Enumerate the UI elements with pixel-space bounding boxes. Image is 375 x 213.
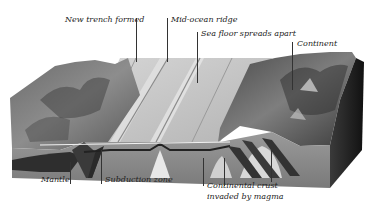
leader-continental-crust-c [271, 150, 272, 182]
leader-subduction-zone [101, 150, 102, 184]
label-continent: Continent [297, 39, 337, 49]
label-continental-crust-line2: invaded by magma [207, 192, 284, 202]
leader-sea-floor-spreads [197, 32, 198, 83]
label-continental-crust-line1: Continental crust [207, 181, 278, 191]
leader-new-trench [136, 18, 137, 62]
label-mantle: Mantle [41, 175, 70, 185]
leader-continental-crust-a [203, 158, 204, 186]
label-sea-floor-spreads: Sea floor spreads apart [201, 29, 296, 39]
leader-mid-ocean-ridge [167, 18, 168, 62]
label-mid-ocean-ridge: Mid-ocean ridge [171, 15, 237, 25]
leader-continent [292, 42, 293, 90]
label-subduction-zone: Subduction zone [105, 175, 173, 185]
diagram-canvas: New trench formed Mid-ocean ridge Sea fl… [0, 0, 375, 213]
label-new-trench: New trench formed [65, 15, 144, 25]
leader-mantle [70, 162, 71, 184]
leader-continental-crust-b [224, 158, 225, 186]
